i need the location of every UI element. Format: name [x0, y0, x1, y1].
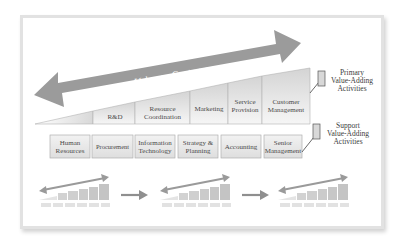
svg-text:Information: Information: [138, 139, 172, 147]
svg-text:Resources: Resources: [56, 147, 85, 155]
support-box-information-technology: Information Technology: [135, 135, 175, 158]
support-box-strategy-planning: Strategy & Planning: [178, 135, 218, 158]
svg-text:Provision: Provision: [232, 106, 259, 114]
primary-label: Primary Value-Adding Activities: [310, 68, 373, 93]
mini-value-chain-1: [39, 174, 110, 207]
svg-text:Technology: Technology: [139, 147, 172, 155]
primary-box-customer-management: Customer Management: [262, 68, 310, 124]
support-box-human-resources: Human Resources: [50, 135, 90, 158]
flow-arrow-icon: [242, 190, 269, 200]
svg-text:Resource: Resource: [149, 105, 175, 113]
svg-text:Service: Service: [235, 98, 256, 106]
value-chain-diagram: Value to Customer R&D Resource Coordinat…: [0, 0, 404, 246]
svg-text:Procurement: Procurement: [96, 143, 129, 150]
svg-text:Planning: Planning: [186, 147, 211, 155]
svg-text:Coordination: Coordination: [144, 113, 181, 121]
svg-text:Accounting: Accounting: [225, 143, 258, 151]
svg-text:Customer: Customer: [272, 98, 300, 106]
bracket-icon: [313, 124, 320, 139]
support-activities: Human Resources Procurement Information …: [50, 135, 302, 158]
bracket-icon: [318, 71, 325, 86]
svg-text:Human: Human: [60, 139, 81, 147]
support-label: Support Value-Adding Activities: [302, 121, 369, 152]
support-box-senior-management: Senior Management: [264, 135, 302, 158]
mini-value-chain-3: [278, 174, 349, 207]
svg-text:Senior: Senior: [274, 139, 293, 147]
primary-box-resource-coordination: Resource Coordination: [135, 91, 190, 124]
mini-diagrams: [39, 174, 349, 207]
support-box-procurement: Procurement: [92, 135, 133, 158]
support-box-accounting: Accounting: [221, 135, 261, 158]
flow-arrow-icon: [121, 190, 148, 200]
svg-text:Management: Management: [268, 106, 305, 114]
primary-box-service-provision: Service Provision: [228, 76, 262, 124]
primary-box-marketing: Marketing: [190, 83, 228, 124]
mini-value-chain-2: [160, 174, 231, 207]
svg-text:Activities: Activities: [337, 84, 366, 93]
primary-box-rnd: R&D: [93, 102, 135, 124]
svg-text:Activities: Activities: [333, 137, 362, 146]
wedge-tail: [35, 111, 93, 124]
svg-text:R&D: R&D: [107, 113, 122, 121]
svg-text:Strategy &: Strategy &: [183, 139, 214, 147]
svg-text:Management: Management: [265, 147, 302, 155]
svg-text:Marketing: Marketing: [194, 105, 224, 113]
